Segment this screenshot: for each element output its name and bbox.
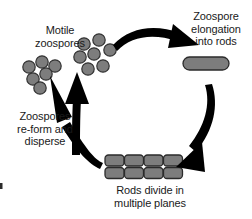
zoospore-circle bbox=[74, 51, 86, 63]
label-zoospores-reform-and-disperse: Zoospores re-form and disperse bbox=[6, 110, 84, 148]
zoospore-circle bbox=[97, 60, 109, 72]
label-motile-zoospores: Motile zoospores bbox=[14, 24, 106, 49]
elongated-rod bbox=[183, 57, 229, 70]
rod-shape bbox=[183, 57, 229, 70]
rod-cell bbox=[144, 168, 163, 179]
label-zoospore-elongation-into-rods: Zoospore elongation into rods bbox=[180, 10, 252, 48]
edge-tick-mark bbox=[0, 183, 3, 189]
zoospore-circle bbox=[40, 68, 52, 80]
zoospore-circle bbox=[82, 63, 94, 75]
zoospore-circle bbox=[34, 82, 46, 94]
rod-cell bbox=[164, 168, 183, 179]
rod-cell bbox=[105, 155, 124, 166]
label-rods-divide-in-multiple-planes: Rods divide in multiple planes bbox=[94, 184, 206, 209]
zoospore-circle bbox=[36, 56, 48, 68]
zoospore-life-cycle-diagram: Motile zoospores Zoospore elongation int… bbox=[0, 0, 252, 219]
rod-cell bbox=[105, 168, 124, 179]
rod-cell bbox=[125, 155, 144, 166]
zoospore-circle bbox=[23, 61, 35, 73]
zoospore-circle bbox=[88, 48, 100, 60]
rod-division-grid bbox=[105, 155, 183, 179]
rod-cell bbox=[144, 155, 163, 166]
rod-cell bbox=[125, 168, 144, 179]
